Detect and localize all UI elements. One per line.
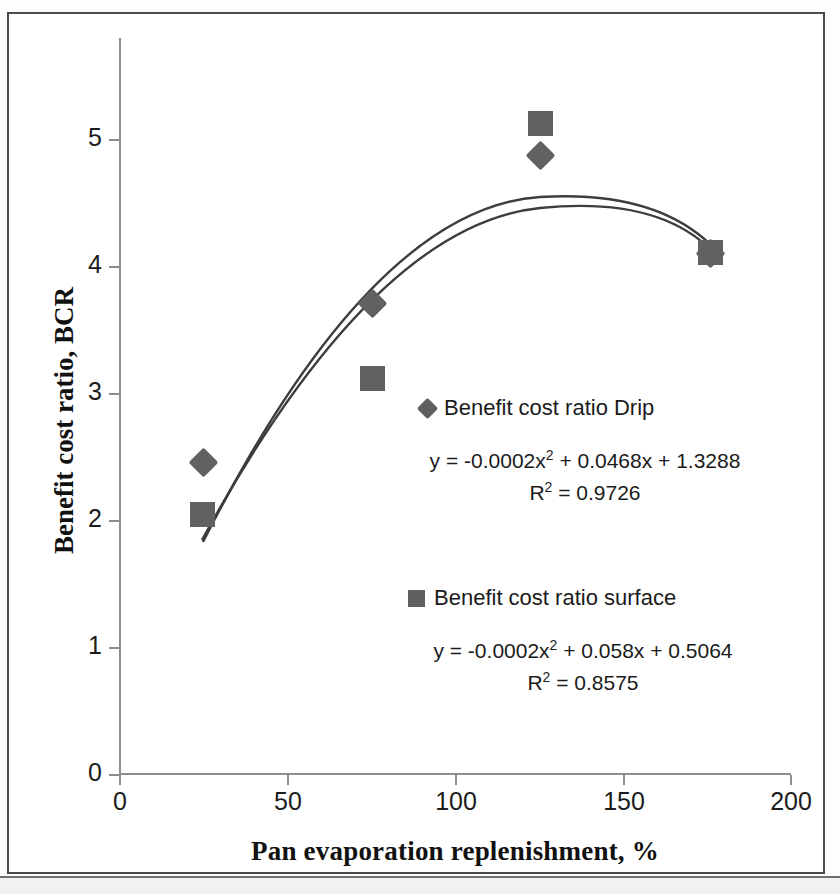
legend-label-drip: Benefit cost ratio Drip	[444, 395, 654, 421]
data-point-surface-125	[528, 111, 553, 136]
diamond-marker-icon	[417, 397, 438, 418]
x-tick-label-0: 0	[85, 787, 155, 816]
equation-drip-exponent: 2	[546, 447, 554, 463]
r2-drip-prefix: R	[529, 481, 544, 504]
y-tick-1	[109, 647, 119, 649]
x-tick-150	[623, 775, 625, 785]
figure-root: 5 4 3 2 1 0 0 50 100 150 200	[0, 0, 840, 894]
y-tick-4	[109, 266, 119, 268]
x-tick-0	[119, 775, 121, 785]
y-axis-title: Benefit cost ratio, BCR	[49, 101, 80, 741]
r2-surface-rest: = 0.8575	[550, 671, 638, 694]
equation-drip-rest: + 0.0468x + 1.3288	[554, 449, 741, 472]
annotation-drip: Benefit cost ratio Drip y = -0.0002x2 + …	[420, 395, 750, 505]
equation-surface-rest: + 0.058x + 0.5064	[557, 639, 732, 662]
equation-drip-prefix: y = -0.0002x	[430, 449, 546, 472]
y-tick-3	[109, 393, 119, 395]
y-axis-line	[119, 38, 121, 775]
equation-drip: y = -0.0002x2 + 0.0468x + 1.3288	[420, 447, 750, 473]
legend-label-surface: Benefit cost ratio surface	[434, 585, 676, 611]
y-tick-5	[109, 139, 119, 141]
legend-item-surface: Benefit cost ratio surface	[408, 585, 758, 611]
annotation-surface: Benefit cost ratio surface y = -0.0002x2…	[408, 585, 758, 695]
r2-surface-prefix: R	[527, 671, 542, 694]
data-point-drip-125	[526, 141, 556, 171]
data-point-surface-25	[190, 502, 215, 527]
x-tick-100	[455, 775, 457, 785]
data-point-drip-75	[358, 289, 388, 319]
data-point-surface-75	[360, 366, 385, 391]
x-tick-label-100: 100	[421, 787, 491, 816]
x-tick-label-200: 200	[756, 787, 826, 816]
plot-area: 5 4 3 2 1 0 0 50 100 150 200	[0, 0, 840, 894]
x-tick-label-150: 150	[589, 787, 659, 816]
scan-bottom-band	[0, 878, 840, 894]
r2-drip: R2 = 0.9726	[420, 479, 750, 505]
data-point-drip-25	[189, 448, 219, 478]
equation-surface-prefix: y = -0.0002x	[433, 639, 549, 662]
x-tick-50	[287, 775, 289, 785]
x-tick-label-50: 50	[253, 787, 323, 816]
y-tick-0	[109, 774, 119, 776]
x-axis-title: Pan evaporation replenishment, %	[119, 836, 791, 867]
r2-drip-rest: = 0.9726	[552, 481, 640, 504]
y-tick-label-0: 0	[62, 758, 102, 787]
legend-item-drip: Benefit cost ratio Drip	[420, 395, 750, 421]
square-marker-icon	[408, 590, 425, 607]
x-tick-200	[790, 775, 792, 785]
y-tick-2	[109, 520, 119, 522]
r2-surface: R2 = 0.8575	[408, 669, 758, 695]
equation-surface: y = -0.0002x2 + 0.058x + 0.5064	[408, 637, 758, 663]
